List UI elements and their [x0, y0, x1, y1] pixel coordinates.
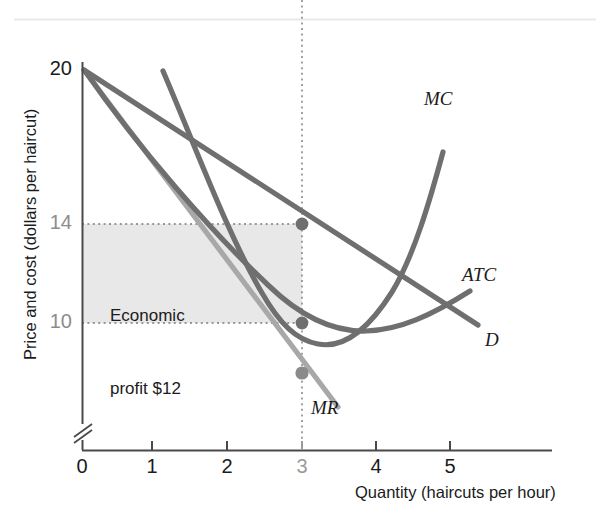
- x-axis-title: Quantity (haircuts per hour): [355, 484, 556, 502]
- y-tick-label-20: 20: [28, 58, 72, 80]
- atc-curve-label: ATC: [462, 265, 496, 286]
- x-tick-label-1: 1: [134, 456, 170, 478]
- x-tick-label-5: 5: [432, 456, 468, 478]
- y-tick-label-14: 14: [28, 212, 72, 234]
- price-point-marker: [296, 218, 309, 231]
- mr-curve-label: MR: [311, 398, 338, 419]
- atc-point-marker: [296, 317, 309, 330]
- mr-mc-intersection-marker: [295, 366, 308, 379]
- x-tick-label-2: 2: [209, 456, 245, 478]
- x-tick-label-0: 0: [64, 456, 100, 478]
- d-curve-label: D: [485, 330, 499, 351]
- economic-profit-line-2: profit $12: [110, 377, 185, 401]
- x-tick-label-3: 3: [284, 456, 320, 478]
- x-tick-label-4: 4: [358, 456, 394, 478]
- economics-figure: Price and cost (dollars per haircut) 20 …: [0, 0, 604, 519]
- economic-profit-line-1: Economic: [110, 304, 185, 328]
- y-tick-label-10: 10: [28, 311, 72, 333]
- economic-profit-annotation: Economic profit $12: [110, 256, 185, 449]
- y-axis-break-slash-1: [74, 424, 92, 437]
- mc-curve-label: MC: [424, 89, 453, 110]
- chart-canvas: [0, 0, 604, 519]
